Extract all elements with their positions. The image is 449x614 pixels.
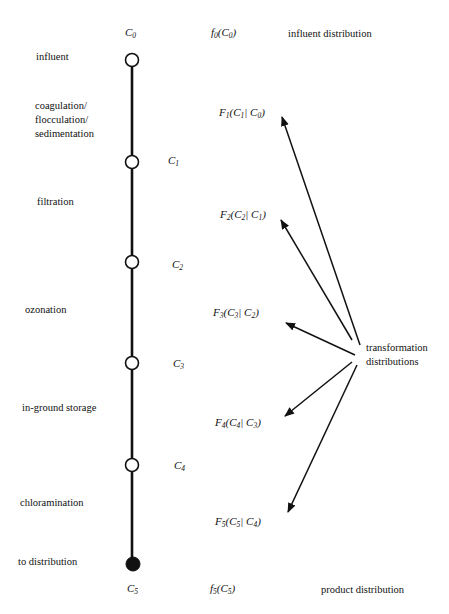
c2-label: C2 bbox=[172, 258, 183, 272]
arrow-f1 bbox=[282, 117, 360, 345]
arrow-f4 bbox=[285, 362, 352, 416]
stage-ozonation: ozonation bbox=[25, 304, 66, 317]
node-c4 bbox=[126, 459, 139, 472]
influent-distribution-label: influent distribution bbox=[288, 28, 372, 41]
node-c3 bbox=[126, 357, 139, 370]
node-c5 bbox=[126, 557, 140, 571]
f0-label: f0(C0) bbox=[211, 26, 236, 40]
node-c2 bbox=[126, 256, 139, 269]
c1-label: C1 bbox=[168, 154, 179, 168]
stage-filtration: filtration bbox=[37, 196, 74, 209]
stage-in-ground-storage: in-ground storage bbox=[22, 402, 96, 415]
stage-to-distribution: to distribution bbox=[18, 556, 77, 569]
node-c0 bbox=[126, 54, 139, 67]
c3-label: C3 bbox=[173, 357, 184, 371]
node-c1 bbox=[126, 156, 139, 169]
stage-influent: influent bbox=[36, 51, 69, 64]
transform-f2-label: F2(C2| C1) bbox=[220, 208, 266, 222]
f5-label: f5(C5) bbox=[210, 582, 235, 596]
transform-f3-label: F3(C3| C2) bbox=[213, 306, 259, 320]
product-distribution-label: product distribution bbox=[321, 584, 404, 597]
c0-label: C0 bbox=[125, 26, 136, 40]
stage-chloramination: chloramination bbox=[20, 497, 84, 510]
transformation-distributions-label: transformation distributions bbox=[366, 341, 428, 369]
transform-f1-label: F1(C1| C0) bbox=[219, 106, 265, 120]
c5-label: C5 bbox=[127, 582, 138, 596]
arrow-f5 bbox=[288, 365, 357, 512]
stage-coagulation: coagulation/ flocculation/ sedimentation bbox=[35, 99, 94, 141]
c4-label: C4 bbox=[174, 459, 185, 473]
transform-f4-label: F4(C4| C3) bbox=[215, 416, 261, 430]
transform-f5-label: F5(C5| C4) bbox=[215, 515, 261, 529]
arrow-f2 bbox=[281, 220, 352, 340]
